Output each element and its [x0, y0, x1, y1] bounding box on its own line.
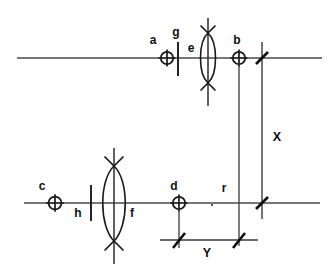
label-g: g — [172, 25, 179, 39]
label-x-dimension: X — [273, 130, 282, 144]
lens-f — [103, 148, 126, 264]
optical-system-diagram: a g e b — [0, 0, 336, 276]
label-r: r — [222, 181, 227, 195]
lens-e — [201, 18, 216, 106]
label-e: e — [188, 41, 195, 55]
reference-point-r — [211, 204, 213, 206]
label-y-dimension: Y — [203, 246, 212, 260]
label-b: b — [233, 33, 240, 47]
label-a: a — [150, 33, 157, 47]
marker-d — [171, 195, 188, 212]
marker-c — [46, 194, 64, 212]
diagram-canvas: a g e b — [0, 0, 336, 276]
marker-a — [159, 50, 176, 67]
label-c: c — [39, 179, 46, 193]
label-d: d — [170, 179, 177, 193]
label-h: h — [74, 206, 81, 220]
label-f: f — [130, 206, 135, 220]
